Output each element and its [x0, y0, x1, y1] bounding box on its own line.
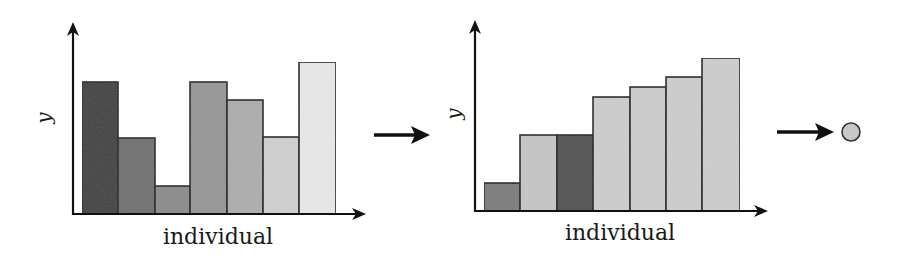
right-bar-4 — [593, 97, 630, 211]
left-bar-5 — [227, 100, 263, 214]
right-bar-3 — [557, 135, 593, 211]
right-bar-7 — [702, 58, 740, 211]
result-circle-icon — [842, 123, 860, 141]
left-bar-3 — [155, 186, 190, 214]
left-bar-chart: y individual — [32, 22, 366, 249]
left-bar-6 — [263, 137, 299, 214]
right-x-label: individual — [565, 220, 675, 245]
right-bar-1 — [484, 183, 520, 211]
right-bar-chart: y individual — [442, 20, 768, 245]
left-bar-1 — [82, 82, 118, 214]
right-bars — [484, 58, 740, 211]
left-x-label: individual — [163, 224, 273, 249]
right-bar-2 — [520, 135, 557, 211]
left-bar-4 — [190, 82, 227, 214]
left-bar-7 — [299, 62, 336, 214]
left-y-label: y — [32, 112, 56, 125]
right-y-label: y — [442, 108, 466, 121]
left-bars — [82, 62, 336, 214]
transition-arrow-icon — [374, 126, 430, 144]
right-bar-5 — [630, 87, 666, 211]
diagram-canvas: y individual y individual — [0, 0, 902, 258]
result-arrow-icon — [777, 123, 834, 141]
right-bar-6 — [666, 77, 702, 211]
left-bar-2 — [118, 138, 155, 214]
